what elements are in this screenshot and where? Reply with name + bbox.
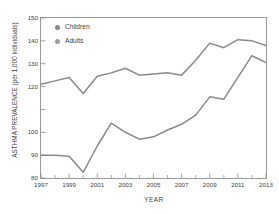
x-tick-label-2011: 2011 [225,182,251,188]
legend-item-adults: Adults [55,37,90,45]
y-tick-label-100: 100 [8,129,38,135]
chart-legend: Children Adults [55,23,90,45]
x-tick-label-2009: 2009 [197,182,223,188]
x-tick-label-2007: 2007 [169,182,195,188]
y-major-tick-marks [41,18,46,178]
x-tick-label-2013: 2013 [253,182,279,188]
y-tick-label-140: 140 [8,38,38,44]
legend-marker-circle-icon [55,25,60,30]
legend-marker-circle-icon [55,39,60,44]
asthma-prevalence-line-chart: ASTHMA PREVALENCE (per 1,000 individuals… [0,0,279,214]
y-tick-label-130: 130 [8,61,38,67]
y-tick-label-120: 120 [8,83,38,89]
x-major-tick-marks [41,174,266,179]
x-axis-title: YEAR [40,196,268,203]
plot-area: 1501401301201101009080 19971999200120032… [40,17,267,179]
x-tick-label-1997: 1997 [28,182,54,188]
y-tick-label-90: 90 [8,152,38,158]
x-tick-label-2003: 2003 [112,182,138,188]
x-tick-label-2005: 2005 [141,182,167,188]
legend-label-children: Children [65,23,90,31]
x-tick-label-2001: 2001 [84,182,110,188]
y-axis-title: ASTHMA PREVALENCE (per 1,000 individuals… [8,0,22,188]
series-line-adults [41,56,266,173]
legend-label-adults: Adults [65,37,83,45]
y-tick-label-110: 110 [8,106,38,112]
y-tick-label-150: 150 [8,15,38,21]
x-tick-label-1999: 1999 [56,182,82,188]
legend-item-children: Children [55,23,90,31]
